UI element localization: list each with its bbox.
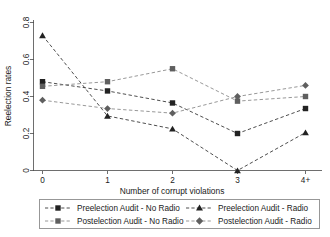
data-point [40,84,45,89]
x-axis-ticks [43,171,306,175]
x-tick-label-0: 0 [40,176,45,185]
x-tick-label-4: 4+ [301,176,311,185]
x-tick-label-1: 1 [105,176,110,185]
series-postelection-audit-no-radio [40,66,308,104]
data-point [235,131,240,136]
data-point [170,100,175,105]
data-point [169,110,176,117]
x-axis-tick-labels: 0 1 2 3 4+ [40,176,310,185]
legend-marker-square-preelection-no-radio [55,205,60,210]
data-point [303,94,308,99]
series-preelection-audit-no-radio [40,79,308,136]
data-point [302,129,309,135]
chart-figure: 0 0.2 0.4 0.6 0.8 Reelection rates 0 1 2… [0,0,330,237]
chart-legend: Preelection Audit - No Radio Preelection… [40,200,320,229]
data-point [169,126,176,132]
data-point [39,97,46,104]
reelection-rates-line-chart: 0 0.2 0.4 0.6 0.8 Reelection rates 0 1 2… [0,0,330,237]
y-tick-label-4: 0.8 [22,16,31,28]
x-tick-label-3: 3 [235,176,240,185]
data-point [104,105,111,112]
x-tick-label-2: 2 [170,176,175,185]
data-point [39,32,46,38]
x-axis-title: Number of corrupt violations [120,186,225,196]
data-point [170,66,175,71]
legend-label-postelection-no-radio: Postelection Audit - No Radio [77,217,184,226]
legend-label-preelection-no-radio: Preelection Audit - No Radio [77,204,180,213]
y-tick-label-3: 0.6 [22,53,31,65]
data-point [302,82,309,89]
legend-label-postelection-radio: Postelection Audit - Radio [218,217,312,226]
y-tick-label-1: 0.2 [22,127,31,139]
y-axis-title: Reelection rates [3,66,13,127]
data-point [105,88,110,93]
y-axis-tick-labels: 0 0.2 0.4 0.6 0.8 [22,16,31,172]
y-tick-label-0: 0 [22,168,31,173]
series-layer [39,32,309,173]
data-point [303,106,308,111]
data-point [104,113,111,119]
series-line [43,69,306,101]
legend-label-preelection-radio: Preelection Audit - Radio [218,204,309,213]
data-point [105,79,110,84]
y-tick-label-2: 0.4 [22,90,31,102]
legend-marker-square-postelection-no-radio [55,218,60,223]
data-point [40,79,45,84]
series-line [43,82,306,134]
